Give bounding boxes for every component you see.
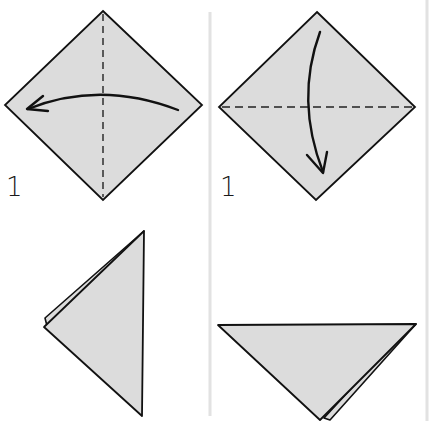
paper-triangle-down xyxy=(218,324,416,420)
step-label-panel-1: 1 xyxy=(6,174,23,200)
origami-diagram: 1 1 xyxy=(0,0,429,421)
step-label-panel-2: 1 xyxy=(220,174,237,200)
paper-triangle-left xyxy=(44,231,144,416)
diagram-canvas xyxy=(0,0,429,421)
panel-2 xyxy=(219,12,415,200)
panel-4 xyxy=(218,324,416,420)
panel-1 xyxy=(5,11,202,200)
panel-3 xyxy=(44,231,144,416)
